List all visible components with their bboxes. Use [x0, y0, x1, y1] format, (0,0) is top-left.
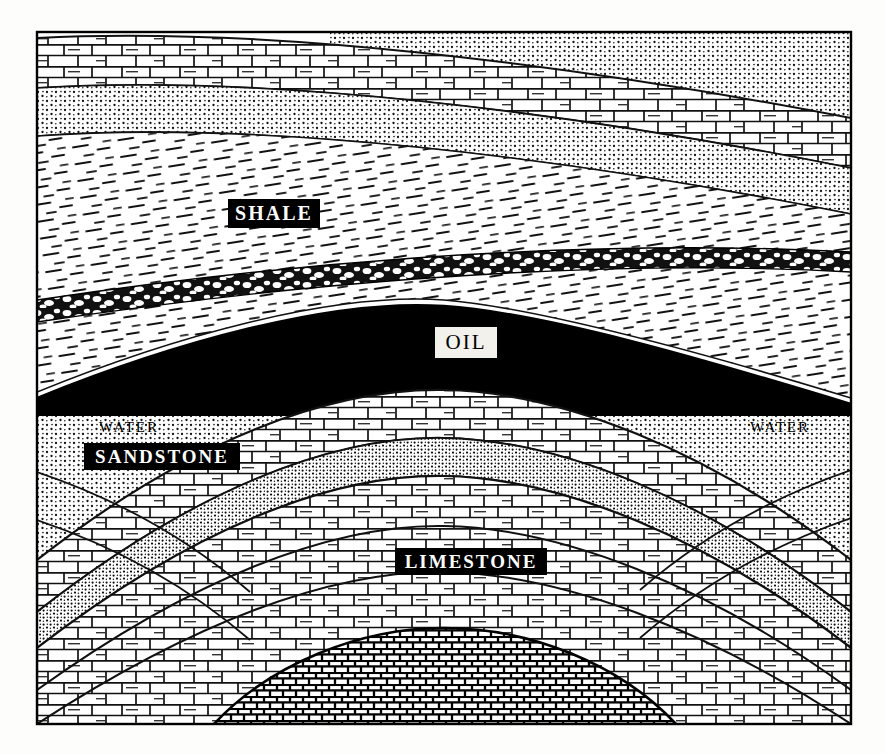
strata-stack — [37, 32, 851, 724]
label-limestone: LIMESTONE — [395, 548, 547, 575]
label-sandstone: SANDSTONE — [84, 443, 240, 470]
geologic-cross-section-figure — [0, 0, 886, 754]
label-oil: OIL — [434, 326, 498, 359]
label-water-left: WATER — [86, 417, 172, 438]
diagram-canvas: SHALE OIL WATER WATER SANDSTONE LIMESTON… — [0, 0, 886, 754]
label-shale: SHALE — [228, 199, 320, 228]
label-water-right: WATER — [737, 417, 823, 438]
